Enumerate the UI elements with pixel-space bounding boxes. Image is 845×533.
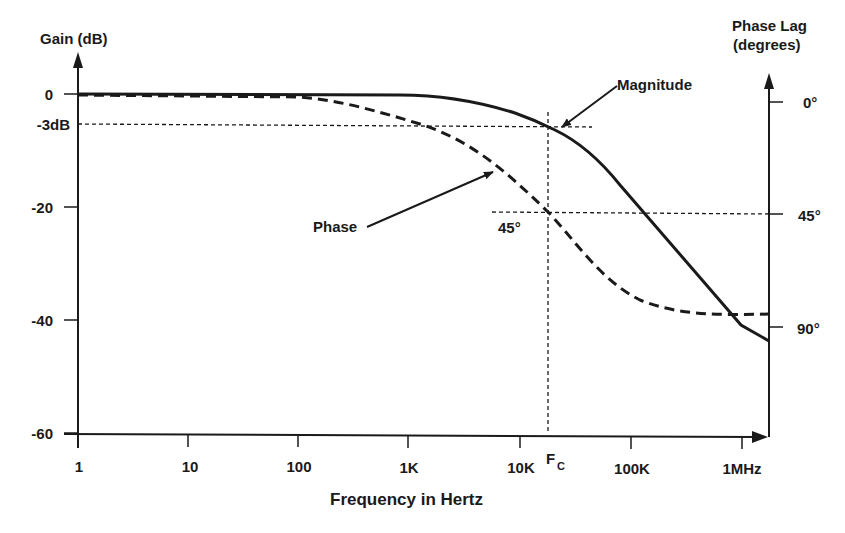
magnitude-label: Magnitude: [617, 76, 692, 93]
fc-label: F: [546, 450, 555, 467]
y-tick-minus20: -20: [31, 199, 53, 216]
phase-tick-90: 90°: [797, 320, 820, 337]
right-axis-arrow-icon: [764, 73, 774, 89]
y-tick-0: 0: [45, 86, 53, 103]
minus3db-reference-line: [78, 124, 592, 127]
x-axis-arrow-icon: [752, 431, 768, 443]
right-y-axis: 0° 45° 90°: [764, 73, 821, 437]
left-y-axis: 0 -3dB -20 -40 -60: [31, 52, 83, 448]
x-tick-1mhz: 1MHz: [722, 460, 761, 477]
x-tick-10: 10: [182, 458, 199, 475]
phase-annotation: Phase: [313, 172, 493, 235]
phase-label: Phase: [313, 218, 357, 235]
y-tick-minus40: -40: [31, 312, 53, 329]
y-tick-minus3db: -3dB: [37, 116, 71, 133]
phase-tick-0: 0°: [803, 94, 817, 111]
x-axis-title: Frequency in Hertz: [330, 490, 483, 509]
gain-axis-title: Gain (dB): [40, 30, 108, 47]
bode-plot: Gain (dB) Phase Lag (degrees) Frequency …: [0, 0, 845, 533]
y-axis-arrow-icon: [73, 52, 83, 68]
phase-tick-45: 45°: [798, 207, 821, 224]
phase-axis-title-line1: Phase Lag: [732, 17, 807, 34]
phase-45-label: 45°: [498, 219, 521, 236]
fc-label-subscript: C: [557, 460, 565, 472]
phase45-reference-line: [492, 212, 769, 214]
x-tick-100k: 100K: [614, 460, 650, 477]
magnitude-curve: [78, 94, 769, 341]
phase-axis-title-line2: (degrees): [733, 36, 801, 53]
x-tick-1: 1: [75, 458, 83, 475]
y-tick-minus60: -60: [31, 425, 53, 442]
x-tick-1k: 1K: [399, 459, 418, 476]
x-axis: 1 10 100 1K 10K 100K 1MHz F C: [64, 431, 768, 477]
phase-curve: [78, 95, 769, 314]
x-tick-10k: 10K: [507, 459, 535, 476]
x-tick-100: 100: [286, 458, 311, 475]
reference-lines: [78, 112, 769, 434]
magnitude-annotation: Magnitude: [562, 76, 692, 127]
